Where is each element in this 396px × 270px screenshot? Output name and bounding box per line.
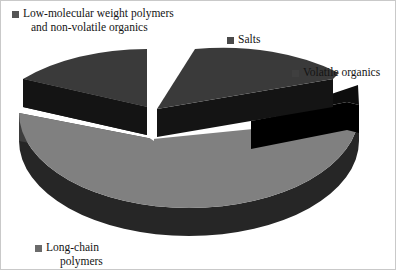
pie-label-text-salts: Salts (238, 33, 260, 47)
legend-swatch-icon-salts (227, 37, 234, 44)
pie-label-text-long-chain-polymers: Long-chain polymers (46, 241, 103, 268)
pie-label-volatile-organics: Volatile organics (292, 66, 380, 80)
pie-label-line2: polymers (46, 255, 103, 269)
pie-label-long-chain-polymers: Long-chain polymers (35, 241, 103, 268)
legend-swatch-icon-volatile-organics (292, 70, 299, 77)
pie-label-line2: and non-volatile organics (23, 21, 174, 35)
pie-slice-volatile-organics-side2 (347, 102, 359, 133)
pie-label-line1: Long-chain (46, 241, 99, 253)
pie-label-text-volatile-organics: Volatile organics (303, 66, 380, 80)
pie-chart-figure (1, 1, 396, 270)
pie-label-line1: Salts (238, 33, 260, 45)
pie-chart-screenshot: Low-molecular weight polymers and non-vo… (0, 0, 396, 270)
pie-label-salts: Salts (227, 33, 260, 47)
legend-swatch-icon-low-molecular-weight-polymers (12, 11, 19, 18)
pie-label-line1: Volatile organics (303, 66, 380, 78)
pie-label-line1: Low-molecular weight polymers (23, 7, 174, 19)
pie-chart-svg (1, 1, 396, 270)
pie-label-low-molecular-weight-polymers: Low-molecular weight polymers and non-vo… (12, 7, 174, 34)
pie-explode-gap (148, 47, 154, 141)
pie-label-text-low-molecular-weight-polymers: Low-molecular weight polymers and non-vo… (23, 7, 174, 34)
legend-swatch-icon-long-chain-polymers (35, 245, 42, 252)
